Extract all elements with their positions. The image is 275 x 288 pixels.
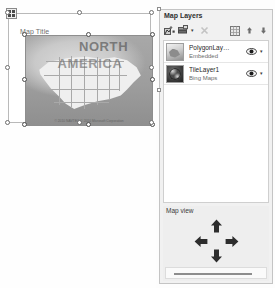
resize-handle-title-ne[interactable] [149, 10, 154, 15]
map-view-label: Map view [166, 207, 193, 214]
layer-menu-caret[interactable]: ▾ [257, 71, 266, 76]
resize-handle-title-nw[interactable] [5, 10, 10, 15]
arrow-down-icon[interactable] [210, 249, 223, 267]
resize-handle-title-e[interactable] [149, 65, 154, 70]
move-layer-up-icon[interactable] [243, 25, 255, 37]
resize-handle-map-w[interactable] [22, 77, 27, 82]
add-layer-icon[interactable] [177, 25, 189, 37]
resize-handle-title-s[interactable] [77, 120, 82, 125]
map-boundary-line [54, 102, 109, 103]
polygon-layer-thumbnail-icon [166, 43, 184, 61]
add-layer-wizard-icon[interactable] [163, 25, 175, 37]
resize-handle-map-s[interactable] [86, 122, 91, 127]
arrow-up-icon[interactable] [210, 219, 223, 237]
eye-icon[interactable] [246, 48, 257, 55]
panel-edge-mark [157, 7, 161, 11]
map-boundary-line [109, 59, 110, 100]
globe-layer-thumbnail-icon [166, 65, 184, 83]
map-boundary-line [84, 56, 85, 109]
arrow-right-icon[interactable] [225, 234, 239, 252]
screenshot-root: Map Title NORTH AMERICA [0, 0, 275, 288]
map-view-section: Map view [163, 206, 269, 281]
layer-source: Embedded [189, 52, 246, 61]
layer-name: PolygonLay… [189, 43, 246, 52]
map-layers-panel: Map Layers ▾ [159, 9, 273, 284]
report-design-surface[interactable]: Map Title NORTH AMERICA [0, 0, 156, 288]
eye-icon[interactable] [246, 70, 257, 77]
map-image[interactable]: NORTH AMERICA © 2010 NAVTEQ © 2010 Micro… [25, 35, 153, 126]
move-handle-dot [12, 10, 15, 13]
panel-edge-mark [157, 88, 161, 92]
panel-title: Map Layers [160, 10, 272, 23]
resize-handle-map-nw[interactable] [22, 32, 27, 37]
resize-handle-title-se[interactable] [149, 120, 154, 125]
resize-handle-title-w[interactable] [5, 65, 10, 70]
resize-handle-map-ne[interactable] [150, 32, 155, 37]
layer-list[interactable]: PolygonLay… Embedded ▾ TileLayer1 Bing M… [163, 40, 269, 203]
layer-name: TileLayer1 [189, 65, 246, 74]
map-boundary-line [119, 61, 120, 91]
layer-properties-icon[interactable] [229, 25, 241, 37]
layer-menu-caret[interactable]: ▾ [257, 49, 266, 54]
map-boundary-line [44, 75, 127, 76]
add-layer-dropdown-caret[interactable]: ▾ [191, 28, 196, 33]
map-boundary-line [71, 56, 72, 108]
move-handle-dot [12, 14, 15, 17]
layer-text-group: TileLayer1 Bing Maps [184, 65, 246, 83]
resize-handle-map-e[interactable] [150, 77, 155, 82]
list-item[interactable]: PolygonLay… Embedded ▾ [164, 41, 268, 63]
map-boundary-line [97, 57, 98, 105]
move-layer-down-icon[interactable] [257, 25, 269, 37]
layers-toolbar: ▾ [160, 23, 272, 38]
map-boundary-line [59, 57, 60, 105]
list-item[interactable]: TileLayer1 Bing Maps ▾ [164, 63, 268, 85]
resize-handle-title-n[interactable] [77, 10, 82, 15]
resize-handle-map-sw[interactable] [22, 122, 27, 127]
pan-control-pad[interactable] [192, 219, 240, 263]
zoom-slider-track[interactable] [174, 273, 252, 275]
map-title-container[interactable]: Map Title NORTH AMERICA [8, 13, 151, 123]
resize-handle-title-sw[interactable] [5, 120, 10, 125]
layer-text-group: PolygonLay… Embedded [184, 43, 246, 61]
zoom-slider[interactable] [165, 267, 267, 279]
arrow-left-icon[interactable] [194, 234, 208, 252]
resize-handle-map-n[interactable] [86, 32, 91, 37]
delete-layer-icon[interactable] [198, 25, 210, 37]
layer-source: Bing Maps [189, 74, 246, 83]
